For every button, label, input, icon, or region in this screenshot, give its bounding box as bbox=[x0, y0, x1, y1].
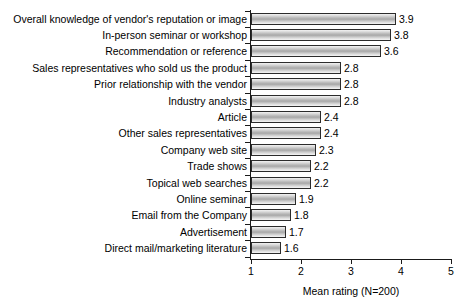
bar bbox=[251, 13, 396, 25]
y-axis-tick bbox=[245, 125, 250, 126]
category-label: In-person seminar or workshop bbox=[102, 27, 247, 43]
bar bbox=[251, 177, 311, 189]
y-axis-tick bbox=[245, 257, 250, 258]
bar-fill bbox=[251, 160, 311, 172]
bar-row: Sales representatives who sold us the pr… bbox=[0, 60, 464, 76]
bar-fill bbox=[251, 29, 391, 41]
bar-value-label: 2.2 bbox=[314, 158, 329, 174]
bar-row: Article2.4 bbox=[0, 109, 464, 125]
bar-fill bbox=[251, 209, 291, 221]
bar-row: Advertisement1.7 bbox=[0, 224, 464, 240]
bar-fill bbox=[251, 95, 341, 107]
bar-fill bbox=[251, 62, 341, 74]
bar-value-label: 2.2 bbox=[314, 175, 329, 191]
bar-fill bbox=[251, 13, 396, 25]
bar-value-label: 1.7 bbox=[289, 224, 304, 240]
x-axis-tick-label: 1 bbox=[239, 265, 263, 277]
bar-row: Recommendation or reference3.6 bbox=[0, 43, 464, 59]
bar-fill bbox=[251, 78, 341, 90]
category-label: Article bbox=[218, 109, 247, 125]
bar-value-label: 2.8 bbox=[344, 60, 359, 76]
bar-fill bbox=[251, 226, 286, 238]
bar-value-label: 2.3 bbox=[319, 142, 334, 158]
bar-fill bbox=[251, 242, 281, 254]
y-axis-line bbox=[250, 10, 251, 260]
bar bbox=[251, 29, 391, 41]
y-axis-tick bbox=[245, 60, 250, 61]
bar bbox=[251, 62, 341, 74]
bar-value-label: 3.6 bbox=[384, 43, 399, 59]
bar bbox=[251, 226, 286, 238]
bar bbox=[251, 144, 316, 156]
x-axis-tick-label: 5 bbox=[439, 265, 463, 277]
bar bbox=[251, 95, 341, 107]
bar-value-label: 2.8 bbox=[344, 76, 359, 92]
x-axis-tick bbox=[251, 259, 252, 264]
x-axis-tick-label: 2 bbox=[289, 265, 313, 277]
category-label: Other sales representatives bbox=[119, 125, 247, 141]
y-axis-tick bbox=[245, 76, 250, 77]
bar-value-label: 2.8 bbox=[344, 93, 359, 109]
bar bbox=[251, 127, 321, 139]
bar-chart: Overall knowledge of vendor's reputation… bbox=[0, 0, 464, 308]
bar-fill bbox=[251, 144, 316, 156]
bar-value-label: 3.9 bbox=[399, 11, 414, 27]
category-label: Advertisement bbox=[180, 224, 247, 240]
bar-row: Online seminar1.9 bbox=[0, 191, 464, 207]
y-axis-tick bbox=[245, 158, 250, 159]
x-axis-tick bbox=[351, 259, 352, 264]
y-axis-tick bbox=[245, 207, 250, 208]
bar-fill bbox=[251, 127, 321, 139]
x-axis-tick-label: 4 bbox=[389, 265, 413, 277]
bar-value-label: 1.6 bbox=[284, 240, 299, 256]
bar-row: Direct mail/marketing literature1.6 bbox=[0, 240, 464, 256]
bar-value-label: 1.9 bbox=[299, 191, 314, 207]
bar bbox=[251, 111, 321, 123]
category-label: Overall knowledge of vendor's reputation… bbox=[13, 11, 247, 27]
y-axis-tick bbox=[245, 224, 250, 225]
bar-fill bbox=[251, 45, 381, 57]
category-label: Topical web searches bbox=[147, 175, 247, 191]
y-axis-tick bbox=[245, 93, 250, 94]
bar-row: Industry analysts2.8 bbox=[0, 93, 464, 109]
y-axis-tick bbox=[245, 11, 250, 12]
bar-value-label: 2.4 bbox=[324, 109, 339, 125]
bar-row: In-person seminar or workshop3.8 bbox=[0, 27, 464, 43]
bar bbox=[251, 160, 311, 172]
bar-row: Trade shows2.2 bbox=[0, 158, 464, 174]
bar-row: Company web site2.3 bbox=[0, 142, 464, 158]
x-axis-tick-label: 3 bbox=[339, 265, 363, 277]
category-label: Company web site bbox=[161, 142, 247, 158]
y-axis-tick bbox=[245, 142, 250, 143]
bar-row: Overall knowledge of vendor's reputation… bbox=[0, 11, 464, 27]
bar bbox=[251, 78, 341, 90]
bar-row: Prior relationship with the vendor2.8 bbox=[0, 76, 464, 92]
bar bbox=[251, 242, 281, 254]
category-label: Email from the Company bbox=[131, 207, 247, 223]
category-label: Trade shows bbox=[187, 158, 247, 174]
category-label: Prior relationship with the vendor bbox=[94, 76, 247, 92]
bar bbox=[251, 45, 381, 57]
category-label: Direct mail/marketing literature bbox=[105, 240, 247, 256]
category-label: Recommendation or reference bbox=[105, 43, 247, 59]
bar bbox=[251, 193, 296, 205]
category-label: Industry analysts bbox=[168, 93, 247, 109]
bar-value-label: 3.8 bbox=[394, 27, 409, 43]
bar-row: Other sales representatives2.4 bbox=[0, 125, 464, 141]
bar-fill bbox=[251, 193, 296, 205]
bar-value-label: 2.4 bbox=[324, 125, 339, 141]
y-axis-tick bbox=[245, 27, 250, 28]
x-axis-tick bbox=[301, 259, 302, 264]
y-axis-tick bbox=[245, 240, 250, 241]
category-label: Sales representatives who sold us the pr… bbox=[32, 60, 247, 76]
y-axis-tick bbox=[245, 43, 250, 44]
x-axis-title: Mean rating (N=200) bbox=[251, 285, 451, 297]
bar-row: Email from the Company1.8 bbox=[0, 207, 464, 223]
y-axis-tick bbox=[245, 109, 250, 110]
x-axis-tick bbox=[401, 259, 402, 264]
bar-row: Topical web searches2.2 bbox=[0, 175, 464, 191]
bar-value-label: 1.8 bbox=[294, 207, 309, 223]
bar-fill bbox=[251, 111, 321, 123]
bar-fill bbox=[251, 177, 311, 189]
y-axis-tick bbox=[245, 175, 250, 176]
